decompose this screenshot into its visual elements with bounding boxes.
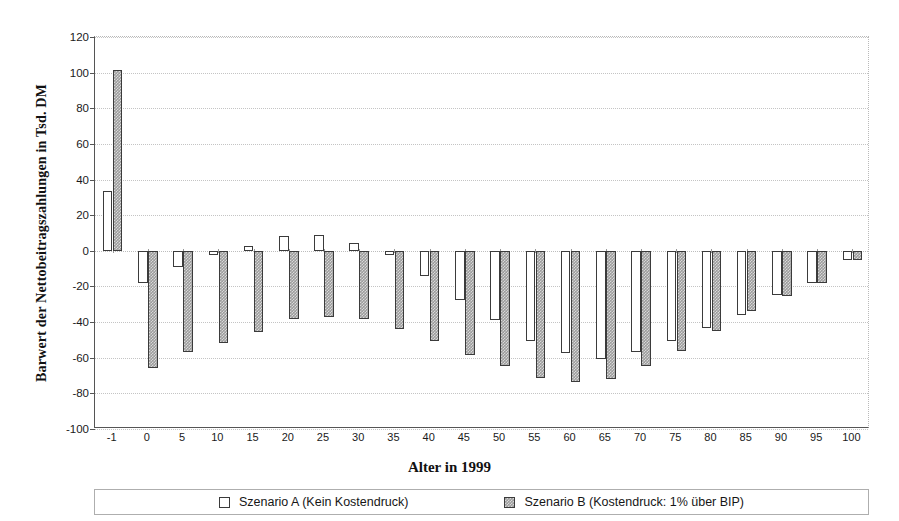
bar-series-b-55 [536,251,546,378]
x-axis-tick-label: 25 [317,431,329,443]
y-axis-tick-label: 80 [43,102,89,114]
bar-series-b-90 [782,251,792,296]
bar-series-b-10 [219,251,229,343]
y-axis-tick [90,251,95,252]
gridline [95,144,868,145]
x-axis-tick-label: 85 [740,431,752,443]
bar-series-b-20 [289,251,299,319]
x-axis-tick-label: 40 [423,431,435,443]
bar-series-a-5 [173,251,183,267]
bar-series-b-5 [183,251,193,353]
x-axis-tick-label: 70 [634,431,646,443]
y-axis-tick [90,393,95,394]
x-axis-tick-label: -1 [107,431,117,443]
legend-swatch-series-a-icon [219,497,230,508]
bar-series-a-50 [490,251,500,320]
gridline [95,108,868,109]
legend-item: Szenario B (Kostendruck: 1% über BIP) [504,495,744,509]
y-axis-tick [90,37,95,38]
y-axis-tick-label: 40 [43,174,89,186]
y-axis-tick-label: -60 [43,352,89,364]
bar-series-b-70 [641,251,651,366]
x-axis-tick-label: 100 [842,431,860,443]
bar-series-a-60 [561,251,571,353]
bar-series-b-25 [324,251,334,317]
x-axis-tick-label: 30 [352,431,364,443]
bar-series-a-75 [667,251,677,341]
x-axis-tick-label: 95 [810,431,822,443]
x-axis-tick-label: 90 [775,431,787,443]
bar-series-b-95 [817,251,827,283]
bar-series-b-75 [677,251,687,351]
y-axis-tick [90,144,95,145]
bar-series-a-90 [772,251,782,296]
y-axis-tick-label: 100 [43,67,89,79]
bar-series-b-100 [853,251,863,260]
bar-series-a-30 [349,243,359,251]
x-axis-tick-label: 75 [669,431,681,443]
bar-series-a-40 [420,251,430,276]
bar-series-a-10 [209,251,219,255]
y-axis-tick [90,73,95,74]
bar-series-b-0 [148,251,158,368]
bar-series-a--1 [103,191,113,251]
gridline [95,73,868,74]
x-axis-tick-label: 45 [458,431,470,443]
x-axis-tick-label: 15 [246,431,258,443]
x-axis-tick-label: 20 [282,431,294,443]
x-axis-tick-label: 5 [179,431,185,443]
gridline [95,429,868,430]
x-axis-tick-label: 10 [211,431,223,443]
gridline [95,393,868,394]
bar-series-a-35 [385,251,395,255]
y-axis-tick-label: -20 [43,280,89,292]
legend-swatch-series-b-icon [504,497,515,508]
bar-series-b-30 [359,251,369,319]
bar-series-b-35 [395,251,405,329]
legend-item: Szenario A (Kein Kostendruck) [219,495,409,509]
bar-series-b-65 [606,251,616,379]
y-axis-tick-label: 0 [43,245,89,257]
gridline [95,358,868,359]
bar-series-a-70 [631,251,641,353]
y-axis-tick-label: -40 [43,316,89,328]
gridline [95,215,868,216]
y-axis-tick [90,215,95,216]
bar-series-a-15 [244,246,254,250]
x-axis-title: Alter in 1999 [0,459,899,476]
x-axis-tick-label: 65 [599,431,611,443]
x-axis-tick-labels: -105101520253035404550556065707580859095… [94,431,869,451]
bar-series-b-85 [747,251,757,311]
bar-chart: Barwert der Nettobeitragszahlungen in Ts… [0,0,899,521]
y-axis-tick [90,180,95,181]
bar-series-b-45 [465,251,475,355]
y-axis-title: Barwert der Nettobeitragszahlungen in Ts… [34,73,50,393]
y-axis-tick [90,322,95,323]
bar-series-b-50 [500,251,510,366]
y-axis-tick [90,429,95,430]
gridline [95,37,868,38]
bar-series-a-20 [279,236,289,251]
chart-legend: Szenario A (Kein Kostendruck) Szenario B… [94,489,869,515]
legend-label-series-b: Szenario B (Kostendruck: 1% über BIP) [524,495,744,509]
x-axis-tick-label: 80 [704,431,716,443]
y-axis-tick-label: 120 [43,31,89,43]
bar-series-a-0 [138,251,148,283]
bar-series-a-45 [455,251,465,300]
bar-series-a-65 [596,251,606,359]
bar-series-b-80 [712,251,722,331]
bar-series-a-25 [314,235,324,251]
gridline [95,180,868,181]
plot-area: 120100806040200-20-40-60-80-100 [94,36,869,428]
bar-series-b-40 [430,251,440,341]
x-axis-tick-label: 55 [528,431,540,443]
y-axis-tick-label: -100 [43,423,89,435]
bar-series-a-80 [702,251,712,329]
bar-series-a-100 [843,251,853,260]
bar-series-b-15 [254,251,264,332]
legend-label-series-a: Szenario A (Kein Kostendruck) [239,495,409,509]
x-axis-tick-label: 60 [563,431,575,443]
x-axis-tick-label: 0 [144,431,150,443]
x-axis-tick-label: 35 [387,431,399,443]
y-axis-tick-label: -80 [43,387,89,399]
